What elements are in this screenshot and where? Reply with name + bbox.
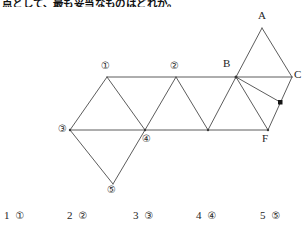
edge-zig-3 [145,77,176,130]
edge-a-to-c [262,28,292,77]
answer-mark-1: ① [16,210,25,221]
circled-label-5: ⑤ [107,185,116,195]
answer-choice-4[interactable]: 4④ [196,207,216,224]
answer-choice-3[interactable]: 3③ [133,207,153,224]
vertex-dots [69,76,269,132]
answer-choice-2[interactable]: 2② [67,207,87,224]
midpoint-square-marker [278,100,283,105]
answer-mark-3: ③ [145,210,154,221]
answer-mark-5: ⑤ [272,210,281,221]
edge-zig-6 [236,77,268,130]
answer-mark-2: ② [79,210,88,221]
circled-label-3: ③ [58,124,67,134]
circled-label-2: ② [170,61,179,71]
answer-number-5: 5 [260,209,266,221]
vertex-dot-b [235,76,238,79]
edge-zig-1 [70,77,107,130]
edge-5-to-4 [113,130,145,184]
vertex-label-a: A [258,10,266,21]
vertex-dot-4 [144,129,146,131]
answer-choice-1[interactable]: 1① [4,207,24,224]
answer-choices: 1① 2② 3③ 4④ 5⑤ [0,207,308,229]
answer-number-4: 4 [196,209,202,221]
vertex-dot-3 [69,129,71,131]
question-text: 点として、最も妥当なものはどれか。 [2,0,302,7]
edge-zig-2 [107,77,145,130]
answer-mark-4: ④ [208,210,217,221]
circled-label-1: ① [101,61,110,71]
vertex-label-c: C [294,69,301,80]
vertex-dot-mid [207,129,209,131]
answer-number-2: 2 [67,209,73,221]
vertex-label-f: F [262,133,268,144]
vertex-label-b: B [223,58,230,69]
vertex-dot-f [267,129,269,131]
answer-number-3: 3 [133,209,139,221]
answer-number-1: 1 [4,209,10,221]
answer-choice-5[interactable]: 5⑤ [260,207,280,224]
edge-zig-5 [208,77,236,130]
edge-zig-4 [176,77,208,130]
edge-3-to-5 [70,130,113,184]
figure-svg [0,8,308,203]
circled-label-4: ④ [142,134,151,144]
edge-b-to-midpoint [236,77,280,102]
edge-b-to-a [236,28,262,77]
geometry-figure: A B C F ① ② ③ ④ ⑤ [0,8,308,203]
net-outline [70,28,292,184]
